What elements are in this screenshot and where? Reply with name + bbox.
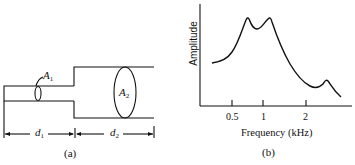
panel-a-caption: (a) xyxy=(64,147,76,159)
a1-label: A1 xyxy=(43,69,53,83)
small-tube-outline xyxy=(4,86,74,101)
expansion-chamber-drawing xyxy=(4,67,154,138)
large-tube-top xyxy=(74,67,154,86)
a2-label: A2 xyxy=(119,86,129,100)
d2-label: d2 xyxy=(110,126,119,140)
x-axis-label: Frequency (kHz) xyxy=(241,127,312,138)
d1-label: d1 xyxy=(35,126,44,140)
a1-leader-line xyxy=(36,77,43,86)
figure-canvas xyxy=(0,0,355,165)
large-tube-bottom xyxy=(74,101,154,118)
frequency-response-chart xyxy=(200,4,352,106)
y-axis-label: Amplitude xyxy=(188,14,199,74)
cross-section-a1 xyxy=(35,87,41,101)
panel-b-caption: (b) xyxy=(262,146,275,158)
tick-label-2: 2 xyxy=(303,111,308,122)
tick-label-1: 1 xyxy=(261,111,266,122)
amplitude-curve xyxy=(212,18,341,97)
tick-label-0-5: 0.5 xyxy=(226,111,239,122)
